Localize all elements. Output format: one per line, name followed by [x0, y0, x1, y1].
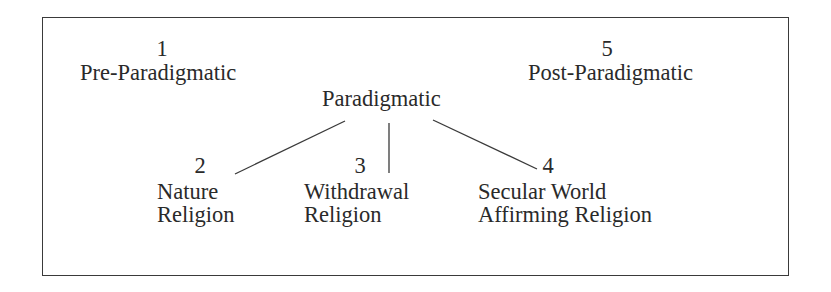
branch-3-line2: Religion [304, 203, 382, 226]
connector-lines [0, 0, 831, 292]
root-label-paradigmatic: Paradigmatic [322, 87, 441, 110]
branch-4-line1: Secular World [478, 180, 606, 203]
connector-paradigmatic-to-nature [235, 121, 345, 174]
branch-number-3: 3 [340, 154, 380, 177]
stage-number-5: 5 [587, 37, 627, 60]
stage-label-post-paradigmatic: Post-Paradigmatic [528, 61, 693, 84]
branch-number-2: 2 [180, 154, 220, 177]
branch-number-4: 4 [528, 154, 568, 177]
stage-label-pre-paradigmatic: Pre-Paradigmatic [80, 61, 236, 84]
branch-2-line2: Religion [157, 203, 235, 226]
connector-paradigmatic-to-secular [433, 120, 537, 169]
stage-number-1: 1 [142, 37, 182, 60]
branch-3-line1: Withdrawal [304, 180, 409, 203]
branch-4-line2: Affirming Religion [478, 203, 652, 226]
branch-2-line1: Nature [157, 180, 218, 203]
